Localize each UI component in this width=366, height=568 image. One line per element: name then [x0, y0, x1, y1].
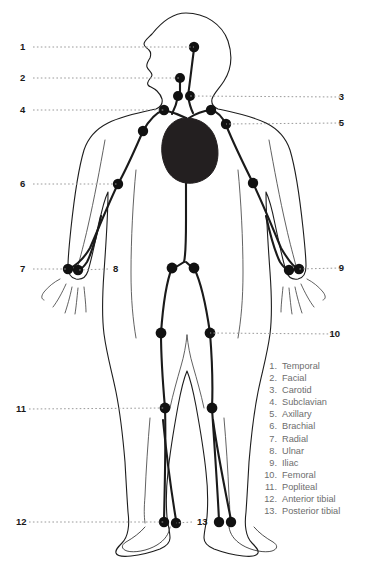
legend-item: 11.Popliteal	[262, 481, 366, 493]
carotid-point-left	[173, 91, 183, 101]
legend-item: 6.Brachial	[262, 420, 366, 432]
callout-number-iliac: 9	[328, 263, 344, 273]
callout-number-facial: 2	[20, 73, 25, 83]
iliac-point-right	[189, 263, 200, 274]
legend-item: 4.Subclavian	[262, 396, 366, 408]
callout-number-femoral: 10	[324, 329, 340, 339]
leader-line-axillary	[226, 123, 340, 124]
legend-item: 1.Temporal	[262, 360, 366, 372]
legend-item-index: 13.	[262, 505, 277, 517]
legend-item: 12.Anterior tibial	[262, 493, 366, 505]
callout-number-axillary: 5	[328, 118, 344, 128]
callout-number-posterior-tibial: 13	[197, 517, 208, 527]
legend-item-label: Femoral	[282, 469, 316, 481]
posterior-tibial-point-right	[226, 517, 236, 527]
leader-line-carotid	[189, 96, 340, 97]
legend-item-index: 11.	[262, 481, 277, 493]
legend-list: 1.Temporal2.Facial3.Carotid4.Subclavian5…	[262, 360, 366, 517]
legend-item-index: 9.	[262, 457, 277, 469]
callout-number-carotid: 3	[328, 92, 344, 102]
subclavian-point-right	[206, 105, 216, 115]
anterior-tibial-point-right	[214, 517, 224, 527]
legend-item-index: 4.	[262, 396, 277, 408]
left-hand-fingers	[42, 279, 86, 314]
legend-item-label: Axillary	[282, 408, 312, 420]
callout-number-subclavian: 4	[20, 105, 25, 115]
callout-number-popliteal: 11	[16, 404, 26, 414]
legend-item-index: 12.	[262, 493, 277, 505]
brachial-point-right	[248, 178, 258, 188]
leader-line-popliteal	[29, 408, 165, 409]
ulnar-point-right	[284, 265, 294, 275]
feet-outline	[122, 527, 276, 552]
popliteal-point-right	[207, 403, 218, 414]
legend-item-label: Temporal	[282, 360, 320, 372]
right-hand-fingers	[281, 279, 325, 314]
callout-number-temporal: 1	[20, 42, 25, 52]
legend-item-label: Subclavian	[282, 396, 327, 408]
legend-item: 9.Iliac	[262, 457, 366, 469]
iliac-point-left	[167, 263, 178, 274]
legend-item: 5.Axillary	[262, 408, 366, 420]
legend-item: 2.Facial	[262, 372, 366, 384]
legend-item-index: 7.	[262, 433, 277, 445]
legend-item-index: 1.	[262, 360, 277, 372]
legend-item: 13.Posterior tibial	[262, 505, 366, 517]
legend-item-index: 10.	[262, 469, 277, 481]
legend-item-index: 8.	[262, 445, 277, 457]
legend-item-label: Carotid	[282, 384, 312, 396]
legend-item-index: 2.	[262, 372, 277, 384]
legend-item: 10.Femoral	[262, 469, 366, 481]
legend-item-label: Radial	[282, 433, 308, 445]
femoral-point-left	[156, 328, 167, 339]
legend-item: 3.Carotid	[262, 384, 366, 396]
legend-item: 7.Radial	[262, 433, 366, 445]
legend-item-index: 3.	[262, 384, 277, 396]
callout-number-radial: 7	[20, 264, 25, 274]
legend-item-label: Brachial	[282, 420, 315, 432]
legend-item-index: 5.	[262, 408, 277, 420]
legend-item-label: Facial	[282, 372, 307, 384]
callout-number-brachial: 6	[20, 179, 25, 189]
legend-item-label: Iliac	[282, 457, 298, 469]
legend-item-index: 6.	[262, 420, 277, 432]
legend-item-label: Anterior tibial	[282, 493, 336, 505]
callout-number-ulnar: 8	[113, 264, 118, 274]
callout-number-anterior-tibial: 12	[16, 517, 27, 527]
pulse-points-diagram: 12345678910111213 1.Temporal2.Facial3.Ca…	[0, 0, 366, 568]
leader-line-femoral	[210, 333, 336, 334]
legend-item: 8.Ulnar	[262, 445, 366, 457]
axillary-point-left	[138, 126, 148, 136]
carotid-point-right	[185, 91, 195, 101]
legend-item-label: Posterior tibial	[282, 505, 340, 517]
heart-shape	[162, 118, 218, 183]
legend-item-label: Ulnar	[282, 445, 304, 457]
legend-item-label: Popliteal	[282, 481, 317, 493]
